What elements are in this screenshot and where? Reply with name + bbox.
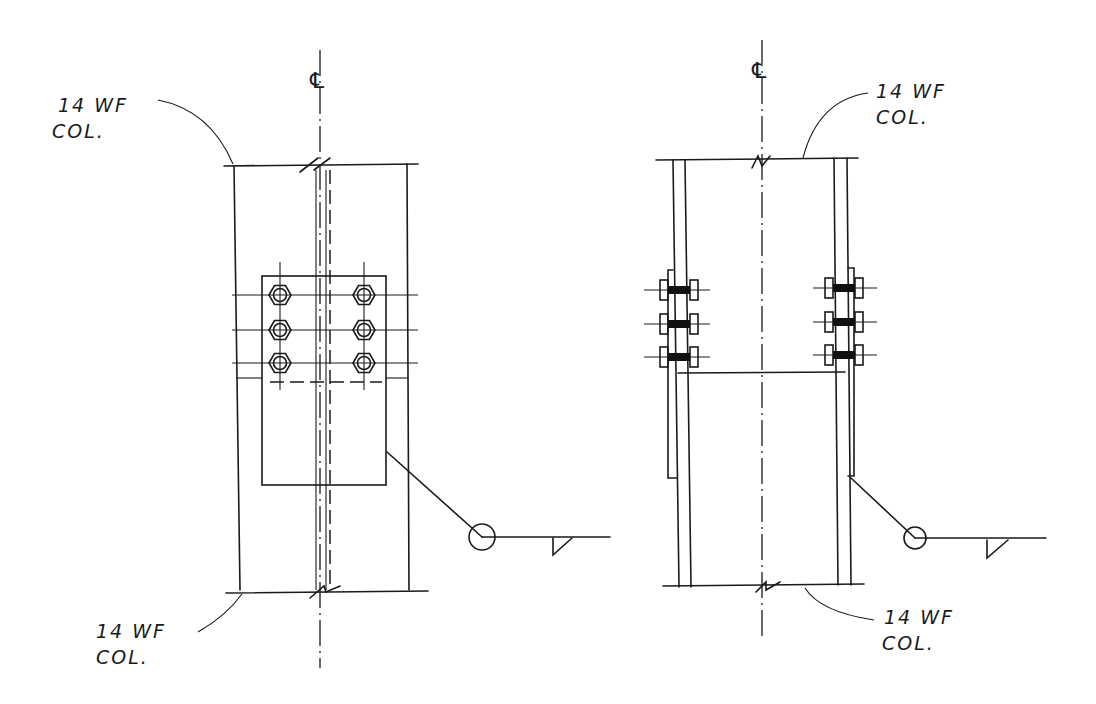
bolt-gauge-lines xyxy=(232,262,418,390)
bolt-icon xyxy=(644,314,710,334)
weld-symbol-left xyxy=(387,452,610,555)
bolt-icon xyxy=(813,278,877,298)
splice-plate-left xyxy=(262,276,386,485)
centerline-symbol-left: ℄ xyxy=(309,68,325,93)
right-view: ℄ xyxy=(644,40,1046,654)
label-top-left: 14 WF COL. xyxy=(52,94,233,164)
left-centerline: ℄ xyxy=(309,50,325,668)
right-column-outline xyxy=(656,156,864,592)
bolt-icon xyxy=(813,345,877,365)
label-bottom-right: 14 WF COL. xyxy=(805,588,954,654)
bolt-group-left xyxy=(269,286,375,373)
splice-detail-drawing: ℄ xyxy=(0,0,1096,704)
label-top-right: 14 WF COL. xyxy=(803,80,946,158)
right-centerline: ℄ xyxy=(751,40,767,638)
bolt-icon xyxy=(644,280,710,300)
bolt-icon xyxy=(813,312,877,332)
weld-symbol-right xyxy=(851,478,1046,558)
left-view: ℄ xyxy=(52,50,610,668)
svg-text:14 WF: 14 WF xyxy=(876,80,946,102)
svg-text:14 WF: 14 WF xyxy=(96,620,166,642)
svg-text:14 WF: 14 WF xyxy=(884,606,954,628)
bolt-group-right-view-right xyxy=(813,278,877,365)
svg-text:COL.: COL. xyxy=(96,646,149,668)
svg-text:COL.: COL. xyxy=(876,106,929,128)
svg-text:COL.: COL. xyxy=(882,632,935,654)
centerline-symbol-right: ℄ xyxy=(751,58,767,83)
bolt-icon xyxy=(644,347,710,367)
bolt-group-right-view-left xyxy=(644,280,710,367)
svg-text:COL.: COL. xyxy=(52,120,105,142)
label-bottom-left: 14 WF COL. xyxy=(96,594,242,668)
svg-text:14 WF: 14 WF xyxy=(58,94,128,116)
